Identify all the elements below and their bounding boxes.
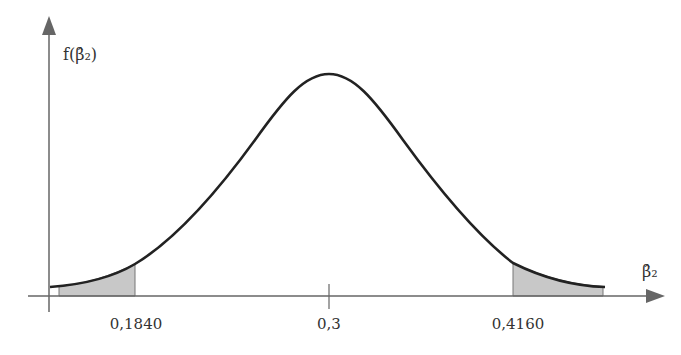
density-curve [50,74,605,287]
tick-label-0-3: 0,3 [317,315,341,333]
tick-label-0-1840: 0,1840 [110,315,163,333]
x-axis-arrow-icon [646,289,665,303]
normal-distribution-chart: f(β̂₂) β̂₂ 0,1840 0,3 0,4160 [0,0,681,355]
x-axis-label: β̂₂ [642,262,658,281]
y-axis-label: f(β̂₂) [63,45,97,64]
y-axis-arrow-icon [42,16,56,35]
tick-label-0-4160: 0,4160 [492,315,545,333]
